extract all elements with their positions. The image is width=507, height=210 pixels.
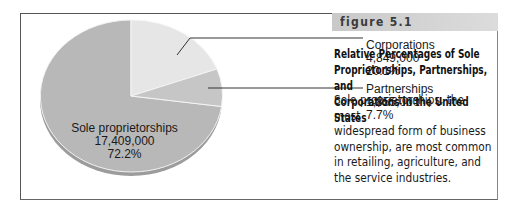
caption-body-line: in retailing, agriculture, and <box>334 155 492 171</box>
label-percent: 72.2% <box>42 148 207 161</box>
figure-caption-body: Sole proprietorships, the most widesprea… <box>334 93 492 186</box>
caption-body-line: Sole proprietorships, the most <box>334 93 492 124</box>
figure-number: figure 5.1 <box>340 13 413 31</box>
label-sole-proprietorships: Sole proprietorships 17,409,000 72.2% <box>42 122 207 161</box>
caption-body-line: ownership, are most common <box>334 140 492 156</box>
caption-title-line: Relative Percentages of Sole <box>334 46 504 62</box>
caption-body-line: widespread form of business <box>334 124 492 140</box>
caption-body-line: the service industries. <box>334 171 492 187</box>
caption-title-line: Proprietorships, Partnerships, and <box>334 62 504 94</box>
